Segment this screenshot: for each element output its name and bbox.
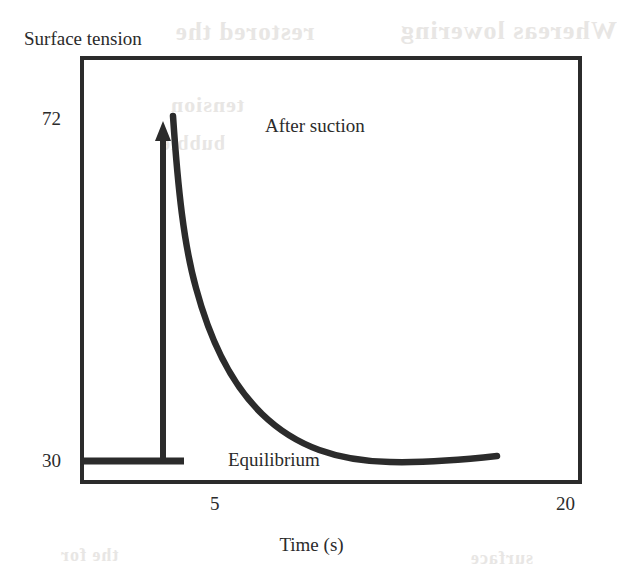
y-axis-title: Surface tension <box>24 28 142 50</box>
x-tick-label-20: 20 <box>556 493 575 515</box>
y-tick-label-30: 30 <box>42 450 61 472</box>
figure-canvas: restored the Whereas lowering tension bu… <box>0 0 623 583</box>
x-tick-label-5: 5 <box>210 493 220 515</box>
annotation-equilibrium: Equilibrium <box>228 449 320 471</box>
after-suction-decay-curve <box>173 116 497 462</box>
y-tick-label-72: 72 <box>42 108 61 130</box>
x-axis-title: Time (s) <box>0 534 623 556</box>
suction-arrow-head <box>155 121 171 141</box>
chart-curves <box>0 0 623 583</box>
annotation-after-suction: After suction <box>265 115 365 137</box>
